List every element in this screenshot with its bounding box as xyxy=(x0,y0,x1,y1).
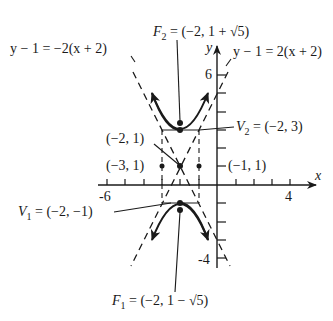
points xyxy=(160,120,202,213)
y-axis-ticks xyxy=(217,75,226,258)
x-axis xyxy=(98,179,316,185)
vertex-v2 xyxy=(177,127,183,133)
asymptote-right-equation: y − 1 = 2(x + 2) xyxy=(233,44,322,60)
center-label: (−2, 1) xyxy=(106,131,145,147)
asymptote-left-equation: y − 1 = −2(x + 2) xyxy=(10,41,107,57)
vertex-v1-label: V1 = (−2, −1) xyxy=(18,204,93,222)
y-tick-label-neg4: -4 xyxy=(198,252,210,267)
x-tick-label-neg6: -6 xyxy=(99,189,111,204)
x-tick-label-4: 4 xyxy=(285,189,292,204)
y-axis xyxy=(217,46,226,268)
focus-f2-label: F2 = (−2, 1 + √5) xyxy=(152,24,250,42)
hyperbola-lower-right-arrow xyxy=(180,203,208,240)
left-point xyxy=(160,164,165,169)
hyperbola-upper-left-arrow xyxy=(152,93,180,130)
right-point-label: (−1, 1) xyxy=(228,158,267,174)
asymptote-left-line xyxy=(133,72,230,266)
right-point xyxy=(197,164,202,169)
vertex-v2-label: V2 = (−2, 3) xyxy=(236,119,303,137)
asymptotes xyxy=(131,72,230,266)
vertex-v1 xyxy=(177,200,183,206)
hyperbola-diagram: y x -6 4 6 -4 y y − 1 = −2(x + 2) y − 1 … xyxy=(0,0,333,321)
y-axis-label: y xyxy=(204,40,213,55)
y-tick-label-6: 6 xyxy=(205,67,212,82)
left-point-label: (−3, 1) xyxy=(106,158,145,174)
x-axis-label: x xyxy=(314,168,322,183)
focus-f1-label: F1 = (−2, 1 − √5) xyxy=(111,293,209,311)
